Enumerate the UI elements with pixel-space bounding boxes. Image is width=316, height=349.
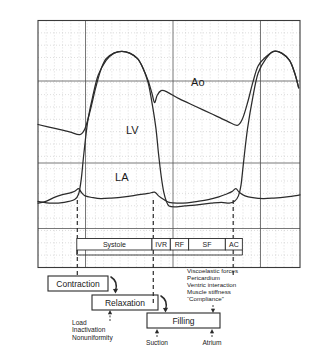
relaxation-determinants-pointer (108, 310, 112, 321)
curve-label-la: LA (115, 171, 129, 183)
annotation-line: “Compliance” (187, 295, 224, 302)
relaxation-box-label: Relaxation (105, 298, 145, 308)
figure-root: Ao LV LA SystoleIVRRFSFAC Contraction Re… (0, 0, 316, 349)
suction-pointer (155, 329, 159, 337)
filling-determinants-text: Viscoelastic forcesPericardiumVentric in… (187, 267, 238, 302)
annotation-line: Load (72, 319, 87, 326)
atrium-label: Atrium (202, 339, 222, 346)
phase-label-systole: Systole (103, 241, 126, 249)
contraction-to-relaxation-arrow (111, 277, 118, 294)
curve-label-ao: Ao (191, 76, 204, 88)
annotation-line: Muscle stiffness (187, 288, 231, 295)
filling-box-label: Filling (172, 316, 194, 326)
annotation-line: Viscoelastic forces (187, 267, 238, 274)
contraction-box-label: Contraction (56, 279, 100, 289)
annotation-line: Ventric interaction (187, 281, 237, 288)
phase-label-sf: SF (203, 241, 212, 248)
atrium-pointer (210, 329, 214, 337)
relaxation-determinants-text: LoadInactivationNonuniformity (72, 319, 113, 342)
relaxation-to-filling-arrow (161, 296, 168, 313)
annotation-line: Inactivation (72, 326, 106, 333)
cardiac-cycle-figure: Ao LV LA SystoleIVRRFSFAC Contraction Re… (0, 0, 316, 349)
phase-label-ac: AC (229, 241, 239, 248)
phase-label-rf: RF (175, 241, 184, 248)
phase-bar: SystoleIVRRFSFAC (77, 239, 243, 256)
suction-label: Suction (146, 339, 168, 346)
curve-label-lv: LV (126, 124, 139, 136)
phase-label-ivr: IVR (155, 241, 167, 248)
annotation-line: Nonuniformity (72, 334, 113, 342)
filling-determinants-pointer (211, 305, 215, 313)
annotation-line: Pericardium (187, 274, 220, 281)
